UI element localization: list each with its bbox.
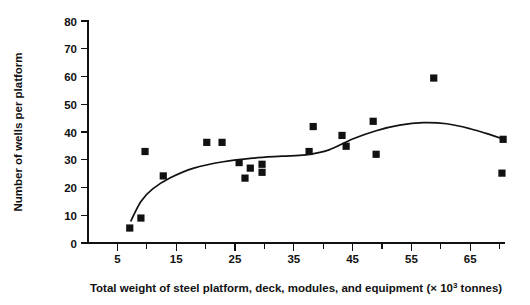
data-point — [126, 224, 133, 231]
y-tick-label: 20 — [64, 182, 77, 194]
data-point — [236, 159, 243, 166]
y-tick-label: 0 — [71, 238, 77, 250]
y-tick-label: 10 — [64, 210, 77, 222]
data-point — [430, 74, 437, 81]
data-point — [160, 172, 167, 179]
y-tick-label: 60 — [64, 71, 77, 83]
data-point — [241, 175, 248, 182]
x-axis-ticks-minor — [147, 243, 500, 249]
y-tick-label: 80 — [64, 16, 77, 28]
data-point — [218, 139, 225, 146]
x-axis-tick-labels: 5 15 25 35 45 55 65 — [114, 253, 477, 265]
scatter-chart-figure: 80 70 60 50 40 30 20 10 0 — [0, 0, 530, 305]
x-axis-title-tail: tonnes) — [457, 282, 502, 294]
x-axis-ticks-major — [117, 243, 470, 251]
x-tick-label: 35 — [287, 253, 300, 265]
x-tick-label: 65 — [464, 253, 477, 265]
y-tick-label: 30 — [64, 154, 77, 166]
x-axis-title: Total weight of steel platform, deck, mo… — [90, 281, 502, 294]
y-axis-tick-labels: 80 70 60 50 40 30 20 10 0 — [64, 16, 77, 250]
data-point — [247, 165, 254, 172]
data-point — [310, 123, 317, 130]
data-point — [305, 148, 312, 155]
trend-line — [131, 123, 503, 221]
x-axis-title-main: Total weight of steel platform, deck, mo… — [90, 282, 453, 294]
x-tick-label: 25 — [229, 253, 242, 265]
data-point — [370, 118, 377, 125]
chart-canvas: 80 70 60 50 40 30 20 10 0 — [0, 0, 530, 305]
data-point — [343, 143, 350, 150]
y-tick-label: 70 — [64, 43, 77, 55]
data-point — [258, 161, 265, 168]
data-point — [203, 139, 210, 146]
y-axis-title: Number of wells per platform — [12, 52, 24, 211]
data-point — [137, 214, 144, 221]
data-point — [500, 136, 507, 143]
data-point — [373, 151, 380, 158]
data-point — [258, 169, 265, 176]
y-tick-label: 50 — [64, 99, 77, 111]
y-tick-label: 40 — [64, 127, 77, 139]
data-point — [338, 132, 345, 139]
y-axis-ticks — [81, 21, 88, 243]
x-tick-label: 45 — [346, 253, 359, 265]
data-point — [141, 148, 148, 155]
x-tick-label: 55 — [405, 253, 418, 265]
data-point — [498, 170, 505, 177]
x-tick-label: 5 — [114, 253, 121, 265]
x-tick-label: 15 — [170, 253, 183, 265]
